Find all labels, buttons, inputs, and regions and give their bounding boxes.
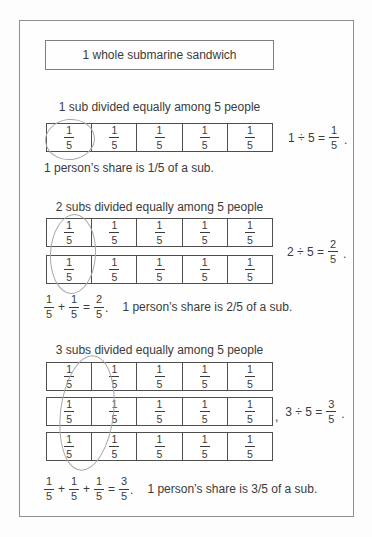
result-fraction: 25 bbox=[94, 294, 104, 320]
division-equation-2: 2 ÷ 5 = 25 . bbox=[287, 237, 346, 266]
fraction-line bbox=[200, 232, 210, 233]
fraction-line bbox=[200, 411, 210, 412]
fraction-cell: 15 bbox=[183, 398, 228, 425]
one-fifth-fraction: 15 bbox=[245, 220, 255, 245]
fraction-cell: 15 bbox=[92, 256, 137, 283]
section2-heading: 2 subs divided equally among 5 people bbox=[46, 201, 273, 214]
fraction-cell: 15 bbox=[47, 398, 92, 425]
fraction-cell: 15 bbox=[47, 256, 92, 283]
fraction-cell: 15 bbox=[183, 124, 228, 151]
fraction-line bbox=[64, 269, 74, 270]
fraction-line bbox=[200, 446, 210, 447]
one-fifth-fraction: 15 bbox=[109, 220, 119, 245]
whole-sandwich-box: 1 whole submarine sandwich bbox=[45, 40, 274, 70]
one-fifth-fraction: 15 bbox=[109, 257, 119, 282]
one-fifth-fraction: 15 bbox=[64, 364, 74, 389]
division-equation-3: , 3 ÷ 5 = 35 . bbox=[275, 397, 345, 426]
one-fifth-fraction: 15 bbox=[155, 399, 165, 424]
fraction-bar-s2b: 15 15 15 15 15 bbox=[46, 255, 273, 284]
fraction-line bbox=[200, 269, 210, 270]
stray-comma: , bbox=[275, 410, 278, 424]
one-fifth-fraction: 15 bbox=[155, 125, 165, 150]
fraction-line bbox=[155, 376, 165, 377]
fraction-line bbox=[155, 232, 165, 233]
division-equation-1: 1 ÷ 5 = 15 . bbox=[288, 123, 347, 152]
fraction-cell: 15 bbox=[92, 124, 137, 151]
fraction-cell: 15 bbox=[92, 398, 137, 425]
fraction-line bbox=[109, 446, 119, 447]
one-fifth-fraction: 15 bbox=[245, 434, 255, 459]
fraction-cell: 15 bbox=[228, 124, 272, 151]
textbook-page: 1 whole submarine sandwich 1 sub divided… bbox=[0, 0, 372, 537]
sum-equation-3: 15 + 15 + 15 = 35 . 1 person’s share is … bbox=[44, 476, 317, 502]
division-lhs: 3 ÷ 5 = bbox=[285, 405, 322, 419]
fraction-line bbox=[200, 376, 210, 377]
fraction-cell: 15 bbox=[47, 363, 92, 390]
one-fifth-fraction: 15 bbox=[245, 364, 255, 389]
division-lhs: 2 ÷ 5 = bbox=[287, 245, 324, 259]
fraction-line bbox=[328, 251, 338, 252]
fraction-cell: 15 bbox=[92, 219, 137, 246]
one-fifth-fraction: 15 bbox=[200, 125, 210, 150]
fraction-cell: 15 bbox=[228, 433, 272, 460]
one-fifth-fraction: 15 bbox=[109, 125, 119, 150]
one-fifth-fraction: 15 bbox=[64, 257, 74, 282]
plus-sign: + bbox=[58, 482, 65, 496]
fraction-line bbox=[245, 376, 255, 377]
whole-sandwich-label: 1 whole submarine sandwich bbox=[82, 48, 236, 62]
one-fifth-fraction: 15 bbox=[155, 434, 165, 459]
fraction-bar-s3b: 15 15 15 15 15 bbox=[46, 397, 273, 426]
fraction-line bbox=[109, 411, 119, 412]
section3-heading: 3 subs divided equally among 5 people bbox=[46, 344, 273, 357]
one-fifth-fraction: 15 bbox=[64, 220, 74, 245]
fraction-line bbox=[155, 137, 165, 138]
one-fifth-fraction: 15 bbox=[245, 257, 255, 282]
result-fraction: 25 bbox=[328, 239, 338, 265]
fraction-cell: 15 bbox=[137, 256, 182, 283]
fraction-line bbox=[326, 411, 336, 412]
fraction-bar-s3a: 15 15 15 15 15 bbox=[46, 362, 273, 391]
fraction-cell: 15 bbox=[228, 363, 272, 390]
one-fifth-fraction: 15 bbox=[245, 399, 255, 424]
fraction-cell: 15 bbox=[137, 433, 182, 460]
one-fifth-fraction: 15 bbox=[245, 125, 255, 150]
term-fraction: 15 bbox=[44, 294, 54, 320]
term-fraction: 15 bbox=[69, 294, 79, 320]
fraction-bar-s1: 15 15 15 15 15 bbox=[46, 123, 273, 152]
fraction-line bbox=[64, 411, 74, 412]
share-statement-2: 1 person’s share is 2/5 of a sub. bbox=[122, 300, 292, 314]
one-fifth-fraction: 15 bbox=[109, 434, 119, 459]
term-fraction: 15 bbox=[44, 476, 54, 502]
fraction-line bbox=[109, 232, 119, 233]
term-fraction: 15 bbox=[69, 476, 79, 502]
fraction-cell: 15 bbox=[92, 363, 137, 390]
fraction-cell: 15 bbox=[183, 363, 228, 390]
term-fraction: 15 bbox=[94, 476, 104, 502]
fraction-bar-s2a: 15 15 15 15 15 bbox=[46, 218, 273, 247]
result-fraction: 35 bbox=[119, 476, 129, 502]
plus-sign: + bbox=[58, 300, 65, 314]
fraction-cell: 15 bbox=[228, 398, 272, 425]
equation-period: . bbox=[344, 133, 347, 147]
fraction-cell: 15 bbox=[47, 433, 92, 460]
section1-heading: 1 sub divided equally among 5 people bbox=[46, 101, 273, 114]
share-statement-3: 1 person’s share is 3/5 of a sub. bbox=[147, 482, 317, 496]
fraction-line bbox=[64, 137, 74, 138]
one-fifth-fraction: 15 bbox=[155, 220, 165, 245]
fraction-line bbox=[200, 137, 210, 138]
one-fifth-fraction: 15 bbox=[155, 364, 165, 389]
plus-sign: + bbox=[83, 482, 90, 496]
fraction-cell: 15 bbox=[92, 433, 137, 460]
sum-equation-2: 15 + 15 = 25 . 1 person’s share is 2/5 o… bbox=[44, 294, 292, 320]
equals-sign: = bbox=[108, 482, 115, 496]
fraction-line bbox=[64, 376, 74, 377]
one-fifth-fraction: 15 bbox=[109, 364, 119, 389]
fraction-line bbox=[109, 137, 119, 138]
fraction-line bbox=[155, 446, 165, 447]
fraction-line bbox=[109, 376, 119, 377]
fraction-line bbox=[155, 269, 165, 270]
one-fifth-fraction: 15 bbox=[64, 399, 74, 424]
fraction-cell: 15 bbox=[228, 219, 272, 246]
fraction-cell: 15 bbox=[183, 256, 228, 283]
one-fifth-fraction: 15 bbox=[200, 434, 210, 459]
